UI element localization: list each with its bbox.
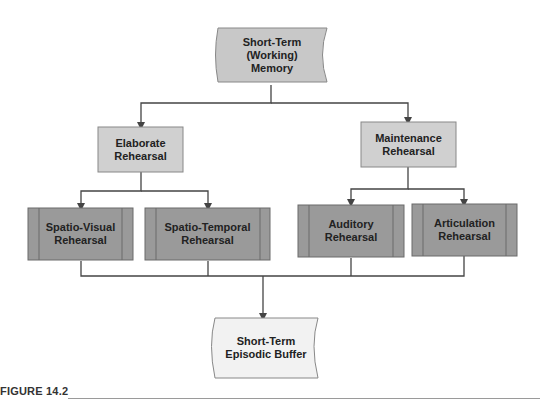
node-maintenance-label: Maintenance Rehearsal bbox=[361, 122, 456, 167]
node-buffer-label: Short-Term Episodic Buffer bbox=[214, 318, 318, 378]
node-spatio-visual-label: Spatio-Visual Rehearsal bbox=[28, 208, 133, 260]
node-elaborate-label: Elaborate Rehearsal bbox=[98, 127, 183, 172]
node-articulation-label: Articulation Rehearsal bbox=[412, 204, 517, 256]
figure-caption: FIGURE 14.2 bbox=[0, 385, 68, 397]
node-root-label: Short-Term (Working) Memory bbox=[218, 28, 326, 82]
connectors bbox=[81, 85, 464, 317]
node-auditory-label: Auditory Rehearsal bbox=[298, 205, 404, 257]
caption-rule bbox=[68, 398, 540, 399]
node-spatio-temporal-label: Spatio-Temporal Rehearsal bbox=[145, 208, 270, 260]
